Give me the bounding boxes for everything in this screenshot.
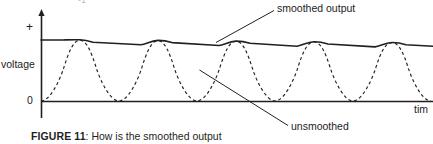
unsmoothed-leader [200, 70, 289, 126]
figure-caption-text: How is the smoothed output [91, 130, 221, 142]
y-axis-label: voltage [1, 59, 35, 70]
annotation-smoothed-output: smoothed output [277, 3, 355, 14]
x-axis-label: tim [414, 104, 428, 115]
figure-caption-number: FIGURE 11 [31, 130, 86, 142]
figure-container: voltage + 0 tim smoothed output unsmooth… [0, 0, 433, 144]
unsmoothed-waveform [41, 40, 431, 101]
smoothed-waveform [41, 40, 433, 47]
smoothed-output-leader-line [216, 11, 274, 43]
y-axis-tick-plus: + [26, 21, 33, 33]
annotation-unsmoothed: unsmoothed [291, 121, 349, 132]
smoothed-output-leader [216, 11, 274, 43]
unsmoothed-leader-line [200, 70, 289, 126]
unsmoothed-path [41, 40, 431, 101]
clipped-text-artifact: -1 [78, 0, 86, 5]
y-axis-tick-zero: 0 [27, 95, 33, 106]
y-axis-arrow-icon [38, 9, 44, 16]
waveform-plot [0, 0, 433, 144]
smoothed-path [41, 40, 433, 47]
figure-caption: FIGURE 11: How is the smoothed output [31, 131, 222, 143]
